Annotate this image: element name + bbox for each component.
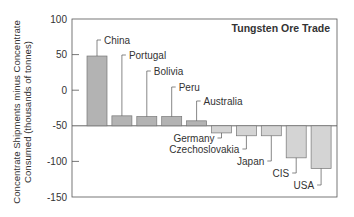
bar-germany [212, 126, 232, 133]
y-axis-label: Concentrate Shipments minus ConcentrateC… [11, 20, 33, 203]
bar-label: Portugal [129, 50, 166, 61]
bar-cis [286, 126, 306, 158]
y-axis-label-line: Concentrate Shipments minus Concentrate [11, 20, 22, 203]
bar-label: Bolivia [154, 66, 184, 77]
bar-czechoslovakia [236, 126, 256, 136]
bar-label: USA [294, 180, 315, 191]
tungsten-ore-trade-chart: Concentrate Shipments minus ConcentrateC… [0, 0, 354, 217]
y-tick-label: 100 [50, 14, 67, 25]
bar-labels: ChinaPortugalBoliviaPeruAustraliaGermany… [97, 35, 321, 191]
bar-label: Peru [179, 82, 200, 93]
y-tick-label: 50 [56, 49, 68, 60]
bar-label: Germany [173, 133, 214, 144]
bar-peru [162, 117, 182, 126]
bar-label: CIS [273, 168, 290, 179]
bar-bolivia [137, 117, 157, 126]
bar-label: Japan [237, 156, 264, 167]
bar-portugal [112, 116, 132, 126]
bar-japan [261, 126, 281, 136]
y-axis: 100500-50-100-150 [47, 14, 79, 203]
y-tick-label: -100 [47, 156, 67, 167]
y-axis-label-line: Consumed (thousands of tonnes) [22, 41, 33, 183]
y-tick-label: -50 [53, 120, 68, 131]
chart-canvas: Concentrate Shipments minus ConcentrateC… [0, 0, 354, 217]
y-tick-label: -150 [47, 192, 67, 203]
bar-china [87, 56, 107, 126]
bar-australia [187, 121, 207, 126]
bar-label: China [104, 35, 131, 46]
chart-title: Tungsten Ore Trade [232, 22, 331, 34]
bar-usa [311, 126, 331, 169]
bar-label: Australia [204, 96, 243, 107]
y-tick-label: 0 [61, 85, 67, 96]
bar-label: Czechoslovakia [169, 144, 239, 155]
